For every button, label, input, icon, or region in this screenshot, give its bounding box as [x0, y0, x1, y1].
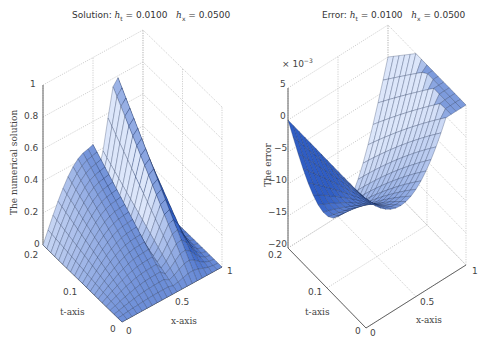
right-z-axis-label: The error [263, 115, 273, 215]
left-x-tick: 1 [227, 266, 233, 276]
left-z-tick: 0.2 [24, 207, 38, 217]
right-z-tick: 0 [280, 111, 286, 121]
left-z-tick: 1 [30, 79, 36, 89]
left-z-axis-label: The numerical solution [9, 115, 19, 215]
left-x-tick: 0 [126, 326, 132, 336]
right-z-tick: 5 [280, 79, 286, 89]
right-x-tick: 0.5 [420, 297, 434, 307]
right-t-tick: 0.2 [268, 250, 282, 260]
left-t-tick: 0.1 [63, 287, 77, 297]
left-z-tick: 0.8 [24, 111, 38, 121]
right-t-tick: 0.1 [308, 287, 322, 297]
left-z-tick: 0 [34, 239, 40, 249]
left-t-tick: 0 [110, 324, 116, 334]
right-x-axis-label: x-axis [416, 315, 442, 325]
left-t-axis-label: t-axis [60, 307, 85, 317]
right-t-axis-label: t-axis [305, 307, 330, 317]
left-t-tick: 0.2 [24, 250, 38, 260]
right-z-tick: −20 [268, 239, 287, 249]
right-z-tick: −5 [274, 143, 287, 153]
right-t-tick: 0 [355, 326, 361, 336]
right-x-tick: 1 [472, 266, 478, 276]
left-x-axis-label: x-axis [171, 316, 197, 326]
right-scale-label: × 10−3 [282, 57, 313, 69]
left-z-tick: 0.4 [24, 175, 38, 185]
right-x-tick: 0 [370, 328, 376, 338]
figure: Solution: ht = 0.0100 hx = 0.0500 Error:… [0, 0, 481, 343]
left-x-tick: 0.5 [175, 297, 189, 307]
left-z-tick: 0.6 [24, 143, 38, 153]
